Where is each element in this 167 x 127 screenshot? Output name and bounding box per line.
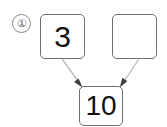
- total-box[interactable]: 10: [79, 86, 123, 126]
- arrow-left: [63, 60, 83, 88]
- addend-box-1[interactable]: 3: [40, 14, 85, 59]
- arrow-right-line: [122, 60, 139, 85]
- total-box-value: 10: [85, 92, 116, 120]
- addend-box-1-value: 3: [54, 22, 71, 52]
- arrow-right: [120, 60, 139, 88]
- number-bond-diagram: ① 3 10: [0, 0, 167, 127]
- addend-box-2-blank[interactable]: [112, 14, 157, 59]
- arrow-left-line: [63, 60, 81, 85]
- item-number-marker: ①: [12, 14, 31, 33]
